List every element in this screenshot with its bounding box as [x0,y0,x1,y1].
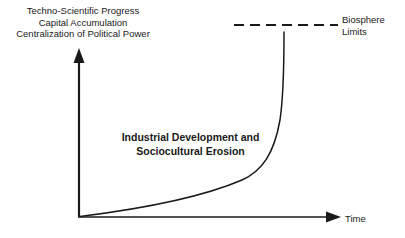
curve-caption-line-1: Industrial Development and [88,131,293,145]
y-axis-caption-line-2: Capital Accumulation [0,17,166,29]
x-axis-arrowhead [326,212,341,223]
y-axis-arrowhead [74,48,85,63]
curve-caption-line-2: Sociocultural Erosion [88,145,293,159]
y-axis-caption: Techno-Scientific Progress Capital Accum… [0,5,166,40]
y-axis-caption-line-3: Centralization of Political Power [0,28,166,40]
growth-curve [80,32,284,217]
biosphere-limits-label-line-1: Biosphere [342,14,404,26]
x-axis-label: Time [345,213,366,225]
biosphere-limits-label: Biosphere Limits [342,14,404,37]
curve-caption: Industrial Development and Sociocultural… [88,131,293,158]
diagram-canvas: Techno-Scientific Progress Capital Accum… [0,0,405,238]
y-axis-caption-line-1: Techno-Scientific Progress [0,5,166,17]
biosphere-limits-label-line-2: Limits [342,26,404,38]
